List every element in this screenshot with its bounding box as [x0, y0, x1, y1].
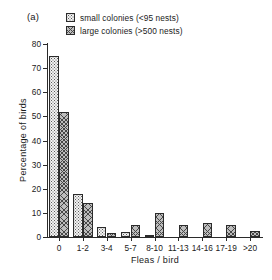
x-axis-tick-label: 17-19 [216, 243, 237, 253]
y-axis-tick-label: 30 [32, 160, 41, 170]
x-axis-tick [250, 237, 251, 241]
x-axis-tick-label: 5-7 [125, 243, 137, 253]
legend-item-large: large colonies (>500 nests) [66, 25, 183, 36]
y-axis-tick [43, 213, 47, 214]
y-axis-tick-label: 10 [32, 208, 41, 218]
bar-large-colonies [155, 213, 165, 237]
y-axis-tick-label: 80 [32, 39, 41, 49]
y-axis-tick-label: 40 [32, 136, 41, 146]
x-axis-tick-label: >20 [243, 243, 257, 253]
x-axis-tick [202, 237, 203, 241]
x-axis-tick-label: 8-10 [146, 243, 163, 253]
bar-small-colonies [49, 56, 59, 237]
y-axis-tick [43, 92, 47, 93]
x-axis-tick-label: 11-13 [168, 243, 189, 253]
bar-large-colonies [107, 233, 117, 237]
y-axis-title: Percentage of birds [18, 98, 28, 182]
x-axis-tick [83, 237, 84, 241]
bar-large-colonies [250, 231, 260, 237]
y-axis-tick [43, 116, 47, 117]
bar-small-colonies [73, 194, 83, 237]
dark-crosshatch-swatch-icon [66, 26, 75, 35]
legend-label-large: large colonies (>500 nests) [80, 26, 183, 36]
x-axis-tick [131, 237, 132, 241]
x-axis-tick-label: 14-16 [192, 243, 213, 253]
x-axis-tick-label: 1-2 [77, 243, 89, 253]
y-axis-tick [43, 237, 47, 238]
bar-large-colonies [83, 203, 93, 237]
bar-large-colonies [59, 112, 69, 237]
y-axis-tick-label: 20 [32, 184, 41, 194]
bar-large-colonies [226, 225, 236, 237]
legend-item-small: small colonies (<95 nests) [66, 12, 183, 23]
bar-small-colonies [121, 232, 131, 237]
bar-small-colonies [97, 227, 107, 237]
y-axis-tick [43, 141, 47, 142]
figure-panel-a: (a) small colonies (<95 nests) large col… [0, 0, 272, 280]
x-axis-title: Fleas / bird [131, 255, 179, 265]
y-axis-tick [43, 44, 47, 45]
y-axis-tick-label: 70 [32, 63, 41, 73]
bar-large-colonies [203, 223, 213, 237]
chart-legend: small colonies (<95 nests) large colonie… [66, 12, 183, 38]
bar-large-colonies [179, 225, 189, 237]
plot-area: 0102030405060708001-23-45-78-1011-1314-1… [47, 44, 262, 237]
x-axis-tick-label: 0 [57, 243, 62, 253]
x-axis-tick [59, 237, 60, 241]
y-axis-tick-label: 60 [32, 87, 41, 97]
bar-small-colonies [145, 235, 155, 237]
panel-label: (a) [27, 11, 39, 22]
x-axis-tick [178, 237, 179, 241]
x-axis-tick [107, 237, 108, 241]
x-axis-tick [155, 237, 156, 241]
light-stipple-swatch-icon [66, 13, 75, 22]
y-axis-tick [43, 165, 47, 166]
y-axis-tick-label: 50 [32, 111, 41, 121]
legend-label-small: small colonies (<95 nests) [80, 13, 179, 23]
y-axis-tick-label: 0 [36, 232, 41, 242]
y-axis-tick [43, 68, 47, 69]
x-axis-tick [226, 237, 227, 241]
bar-large-colonies [131, 225, 141, 237]
y-axis-tick [43, 189, 47, 190]
x-axis-tick-label: 3-4 [101, 243, 113, 253]
